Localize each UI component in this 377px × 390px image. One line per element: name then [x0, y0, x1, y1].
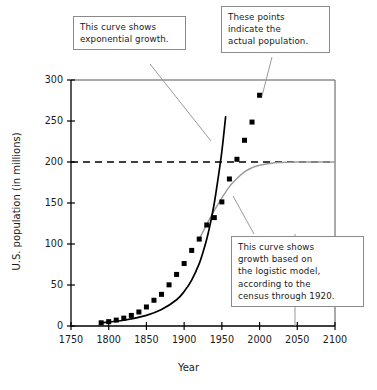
data-point-marker — [234, 157, 239, 162]
data-point-marker — [114, 318, 119, 323]
data-point-marker — [219, 199, 224, 204]
y-tick-label: 0 — [35, 320, 63, 331]
actual-population-callout: These points indicate the actual populat… — [221, 6, 330, 53]
y-axis-title: U.S. population (in millions) — [11, 102, 22, 302]
data-point-marker — [121, 316, 126, 321]
callout-line: This curve shows — [238, 241, 358, 253]
callout-line: growth based on — [238, 253, 358, 265]
x-axis-title: Year — [0, 362, 377, 373]
data-point-marker — [204, 222, 209, 227]
logistic-callout-leader — [233, 196, 254, 234]
exponential-callout-leader — [150, 64, 211, 141]
data-point-marker — [242, 138, 247, 143]
y-tick-label: 200 — [35, 156, 63, 167]
data-point-marker — [189, 248, 194, 253]
y-tick-label: 300 — [35, 74, 63, 85]
x-tick-label: 1800 — [89, 334, 129, 345]
callout-line: exponential growth. — [80, 33, 180, 45]
data-point-marker — [129, 313, 134, 318]
x-tick-label: 2100 — [315, 334, 355, 345]
data-point-marker — [144, 304, 149, 309]
logistic-model-callout: This curve shows growth based on the log… — [231, 236, 364, 307]
data-point-marker — [151, 298, 156, 303]
y-tick-label: 250 — [35, 115, 63, 126]
data-point-marker — [99, 320, 104, 325]
callout-line: the logistic model, — [238, 265, 358, 277]
callout-line: indicate the — [228, 23, 324, 35]
callout-line: according to the — [238, 278, 358, 290]
y-tick-label: 150 — [35, 197, 63, 208]
actual-callout-leader — [262, 57, 272, 96]
chart-canvas — [0, 0, 377, 390]
data-point-marker — [257, 93, 262, 98]
x-tick-label: 1900 — [164, 334, 204, 345]
data-point-marker — [212, 215, 217, 220]
exponential-growth-callout: This curve shows exponential growth. — [73, 16, 186, 50]
callout-line: census through 1920. — [238, 290, 358, 302]
x-tick-label: 2000 — [240, 334, 280, 345]
y-tick-label: 100 — [35, 238, 63, 249]
x-tick-label: 1950 — [202, 334, 242, 345]
y-tick-label: 50 — [35, 279, 63, 290]
callout-line: These points — [228, 11, 324, 23]
callout-line: This curve shows — [80, 21, 180, 33]
data-point-marker — [197, 237, 202, 242]
data-point-marker — [167, 282, 172, 287]
data-point-marker — [227, 176, 232, 181]
x-tick-label: 1750 — [51, 334, 91, 345]
x-tick-label: 1850 — [126, 334, 166, 345]
data-point-marker — [174, 272, 179, 277]
population-growth-figure: 050100150200250300 175018001850190019502… — [0, 0, 377, 390]
data-point-marker — [182, 261, 187, 266]
callout-line: actual population. — [228, 35, 324, 47]
data-point-marker — [159, 292, 164, 297]
x-tick-label: 2050 — [277, 334, 317, 345]
data-point-marker — [250, 120, 255, 125]
data-point-marker — [136, 309, 141, 314]
